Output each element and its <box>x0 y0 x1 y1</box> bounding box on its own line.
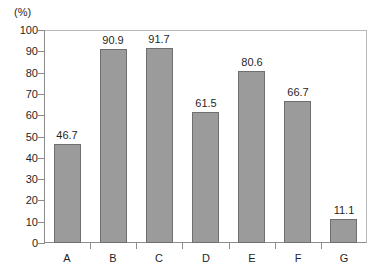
bar <box>146 48 173 243</box>
y-axis-tick <box>38 243 45 244</box>
y-axis-tick-label: 90 <box>4 46 38 57</box>
x-axis-tick <box>275 243 276 249</box>
y-axis-tick-label: 10 <box>4 217 38 228</box>
y-axis-tick <box>38 94 45 95</box>
bar-value-label: 90.9 <box>91 35 135 46</box>
x-axis-category-label: A <box>45 252 89 264</box>
bar-value-label: 66.7 <box>276 87 320 98</box>
x-axis-tick <box>229 243 230 249</box>
y-axis-tick <box>38 73 45 74</box>
bar-value-label: 11.1 <box>322 205 366 216</box>
x-axis-category-label: G <box>322 252 366 264</box>
bar-value-label: 61.5 <box>184 98 228 109</box>
bar-value-label: 91.7 <box>137 34 181 45</box>
y-axis-tick <box>38 222 45 223</box>
bar <box>330 219 357 243</box>
x-axis-category-label: B <box>91 252 135 264</box>
bar <box>100 49 127 243</box>
y-axis-tick <box>38 51 45 52</box>
y-axis-tick <box>38 200 45 201</box>
y-axis-tick-label: 60 <box>4 110 38 121</box>
x-axis-category-label: D <box>184 252 228 264</box>
x-axis-category-label: C <box>137 252 181 264</box>
y-axis-tick-label: 0 <box>4 238 38 249</box>
y-axis-tick-label: 30 <box>4 174 38 185</box>
bar <box>238 71 265 243</box>
y-axis-tick <box>38 30 45 31</box>
y-axis-tick <box>38 115 45 116</box>
bar <box>284 101 311 243</box>
bar <box>192 112 219 243</box>
x-axis-category-label: E <box>230 252 274 264</box>
y-axis-tick-label: 100 <box>4 25 38 36</box>
y-axis-tick-label: 50 <box>4 132 38 143</box>
y-axis-tick-label: 20 <box>4 195 38 206</box>
y-axis-tick <box>38 158 45 159</box>
bar-value-label: 46.7 <box>45 130 89 141</box>
bar-chart: (%) 0102030405060708090100 ABCDEFG 46.79… <box>0 0 378 278</box>
bar <box>54 144 81 243</box>
y-axis-tick-label: 70 <box>4 89 38 100</box>
y-axis-tick <box>38 179 45 180</box>
x-axis-tick <box>136 243 137 249</box>
y-axis-tick-label: 80 <box>4 68 38 79</box>
x-axis-category-label: F <box>276 252 320 264</box>
y-axis-tick-label: 40 <box>4 153 38 164</box>
x-axis-tick <box>182 243 183 249</box>
x-axis-tick <box>90 243 91 249</box>
y-axis-tick <box>38 137 45 138</box>
x-axis-tick <box>321 243 322 249</box>
y-axis-unit-label: (%) <box>14 6 31 18</box>
bar-value-label: 80.6 <box>230 57 274 68</box>
